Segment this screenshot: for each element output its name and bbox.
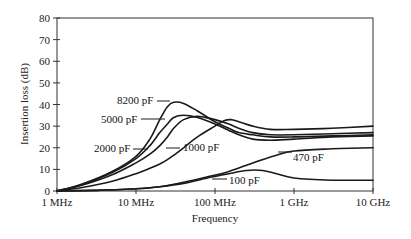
y-tick-label: 40 — [39, 99, 51, 111]
x-axis-title: Frequency — [192, 212, 239, 224]
x-tick-label: 100 MHz — [194, 196, 236, 208]
label-5000pf: 5000 pF — [101, 113, 137, 125]
y-axis-title: Insertion loss (dB) — [18, 63, 31, 145]
label-1000pf: 1000 pF — [183, 141, 219, 153]
y-tick-label: 20 — [39, 142, 51, 154]
x-tick-label: 10 GHz — [356, 196, 391, 208]
y-tick-label: 50 — [39, 77, 51, 89]
x-tick-label: 10 MHz — [118, 196, 154, 208]
curve-470pf — [57, 148, 373, 191]
label-2000pf: 2000 pF — [94, 142, 130, 154]
label-100pf: 100 pF — [229, 174, 260, 186]
y-axis-ticks: 01020304050607080 — [39, 12, 60, 197]
y-tick-label: 30 — [39, 120, 51, 132]
insertion-loss-chart: 01020304050607080 1 MHz10 MHz100 MHz1 GH… — [0, 0, 411, 239]
x-tick-label: 1 GHz — [279, 196, 308, 208]
y-tick-label: 60 — [39, 55, 51, 67]
plot-frame — [57, 18, 373, 191]
label-8200pf: 8200 pF — [117, 94, 153, 106]
y-tick-label: 10 — [39, 163, 51, 175]
y-tick-label: 80 — [39, 12, 51, 24]
x-tick-label: 1 MHz — [42, 196, 73, 208]
curve-100pf — [57, 170, 373, 191]
y-tick-label: 70 — [39, 34, 51, 46]
label-470pf: 470 pF — [293, 151, 324, 163]
